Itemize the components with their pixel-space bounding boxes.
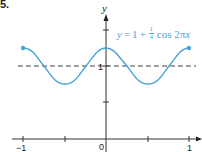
- endpoint-right-dot: [187, 46, 191, 50]
- x-axis-arrow-icon: [196, 137, 202, 142]
- fraction-numerator: 1: [150, 26, 154, 33]
- formula-fraction: 1 4: [149, 26, 154, 41]
- formula-constant: 1: [132, 28, 138, 40]
- formula-equals: =: [124, 28, 130, 40]
- formula-plus: +: [140, 28, 146, 40]
- y-tick-label-one: 1: [98, 62, 103, 72]
- x-tick-label-one: 1: [187, 143, 192, 152]
- fraction-denominator: 4: [150, 34, 154, 41]
- formula-lhs: y: [117, 28, 122, 40]
- y-axis-arrow-icon: [104, 14, 109, 21]
- formula-variable: x: [185, 28, 190, 40]
- x-tick-label-neg-one: −1: [16, 143, 26, 152]
- y-axis-label: y: [101, 2, 107, 14]
- formula-function: cos 2π: [157, 28, 185, 40]
- x-tick-label-zero: 0: [99, 142, 104, 152]
- curve-equation-label: y = 1 + 1 4 cos 2πx: [117, 26, 190, 41]
- endpoint-left-dot: [21, 46, 25, 50]
- cosine-graph: y 1 −1 0 1: [0, 0, 202, 152]
